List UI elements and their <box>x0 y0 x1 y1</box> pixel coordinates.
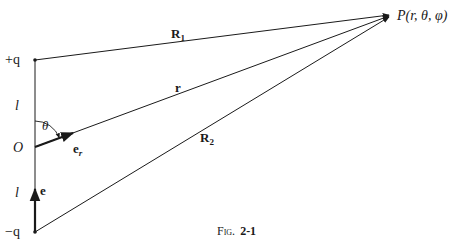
vector-R2-line <box>35 17 389 232</box>
theta-label: θ <box>42 118 49 133</box>
origin-label: O <box>13 140 23 155</box>
vector-R1-label: R1 <box>171 26 185 43</box>
unit-vector-e-label: e <box>40 183 46 198</box>
upper-l-label: l <box>15 98 19 113</box>
caption-prefix: Fig. <box>217 224 235 238</box>
lower-l-label: l <box>15 185 19 200</box>
plus-q-point <box>33 58 37 62</box>
unit-vector-er-arrow <box>35 133 73 147</box>
minus-q-point <box>33 230 37 234</box>
minus-q-label: −q <box>5 224 20 239</box>
plus-q-label: +q <box>5 52 20 67</box>
figure-caption: Fig.2-1 <box>217 224 256 238</box>
point-P-label: P(r, θ, φ) <box>396 8 448 24</box>
vector-R1-line <box>35 15 389 60</box>
vector-r-line <box>35 16 389 147</box>
unit-vector-er-label: er <box>73 141 83 158</box>
dipole-diagram: +q l O θ l −q P(r, θ, φ) R1 r R2 er e Fi… <box>0 0 467 252</box>
caption-number: 2-1 <box>240 224 256 238</box>
vector-R2-label: R2 <box>200 130 214 147</box>
vector-r-label: r <box>175 80 181 95</box>
